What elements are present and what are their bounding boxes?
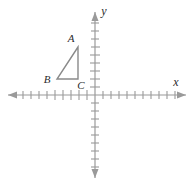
y-axis-down-arrow-icon <box>92 169 99 178</box>
y-axis-label: y <box>100 4 107 18</box>
x-axis-label: x <box>172 75 179 89</box>
coordinate-plane-figure: A B C x y <box>0 0 193 184</box>
coordinate-plane-svg: A B C x y <box>0 0 193 184</box>
vertex-label-a: A <box>67 32 75 44</box>
vertex-label-b: B <box>44 73 51 85</box>
x-axis-right-arrow-icon <box>177 92 186 99</box>
y-axis-up-arrow-icon <box>92 12 99 21</box>
x-axis-left-arrow-icon <box>8 92 17 99</box>
vertex-label-c: C <box>77 79 85 91</box>
triangle-abc-shape <box>57 47 78 79</box>
